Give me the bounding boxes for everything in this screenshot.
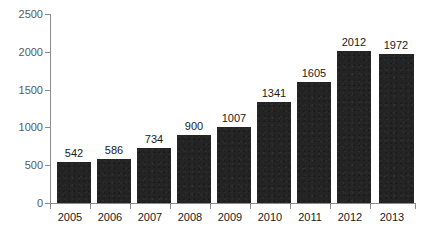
y-axis-tick-label: 500 [1, 160, 43, 171]
bar[interactable] [177, 135, 211, 203]
bar[interactable] [97, 159, 131, 203]
y-axis-tick-label: 1500 [1, 85, 43, 96]
bar[interactable] [379, 54, 414, 203]
y-axis-tick-label-group: 1500 [0, 85, 43, 96]
y-axis-tick-label: 0 [1, 198, 43, 209]
bar-value-label: 1972 [366, 40, 426, 51]
bar[interactable] [137, 148, 171, 203]
x-axis-tick [330, 204, 331, 209]
bar[interactable] [297, 82, 331, 203]
bar[interactable] [217, 127, 251, 203]
x-axis-tick [90, 204, 91, 209]
y-axis-tick-label: 1000 [1, 122, 43, 133]
x-axis-tick [130, 204, 131, 209]
x-axis-tick [50, 204, 51, 209]
bar-value-label: 734 [124, 134, 184, 145]
x-axis-line [50, 203, 416, 204]
bar-value-label: 1007 [204, 113, 264, 124]
y-axis-tick-label-group: 1000 [0, 122, 43, 133]
y-axis-tick-label: 2500 [1, 9, 43, 20]
x-axis-tick [415, 204, 416, 209]
y-axis-tick-label-group: 2500 [0, 9, 43, 20]
x-axis-category-label: 2013 [362, 211, 422, 223]
bar-value-label: 1341 [244, 88, 304, 99]
y-axis-tick-label-group: 0 [0, 198, 43, 209]
bar[interactable] [57, 162, 91, 203]
bar-chart: 2500 2000 1500 1000 500 0 [0, 0, 431, 239]
bar-value-label: 586 [84, 145, 144, 156]
y-axis-tick-label-group: 500 [0, 160, 43, 171]
bar-value-label: 1605 [284, 68, 344, 79]
x-axis-tick [170, 204, 171, 209]
x-axis-tick [290, 204, 291, 209]
x-axis-tick [250, 204, 251, 209]
x-axis-tick [210, 204, 211, 209]
x-axis-tick [370, 204, 371, 209]
y-axis-tick-label: 2000 [1, 47, 43, 58]
y-axis-tick-label-group: 2000 [0, 47, 43, 58]
